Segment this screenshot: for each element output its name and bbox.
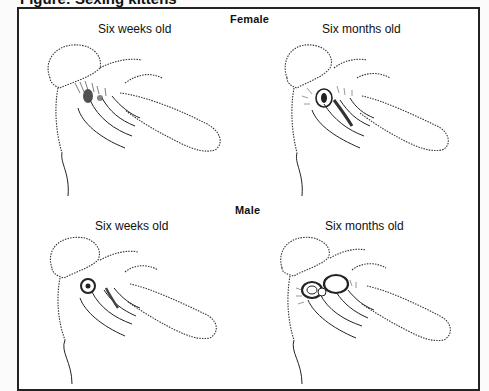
panel-label-male-six-weeks: Six weeks old bbox=[95, 219, 168, 233]
panel-label-female-six-months: Six months old bbox=[322, 22, 401, 36]
panel-label-male-six-months: Six months old bbox=[325, 219, 404, 233]
section-label-male: Male bbox=[235, 204, 260, 216]
illustration-male-six-months bbox=[252, 232, 477, 387]
illustration-male-six-weeks bbox=[20, 232, 245, 387]
kitten-drawing-icon bbox=[252, 232, 477, 387]
illustration-female-six-weeks bbox=[20, 38, 245, 198]
kitten-drawing-icon bbox=[252, 38, 477, 198]
panel-label-female-six-weeks: Six weeks old bbox=[98, 22, 171, 36]
kitten-drawing-icon bbox=[20, 232, 245, 387]
kitten-drawing-icon bbox=[20, 38, 245, 198]
section-label-female: Female bbox=[230, 13, 269, 25]
illustration-female-six-months bbox=[252, 38, 477, 198]
